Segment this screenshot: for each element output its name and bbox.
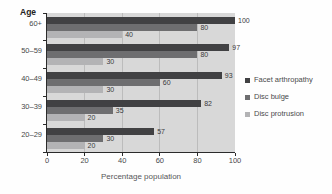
legend-label: Disc protrusion <box>254 110 304 118</box>
bar-disc-bulge <box>47 24 197 31</box>
value-label: 30 <box>106 57 114 66</box>
value-label: 97 <box>232 43 240 52</box>
value-label: 100 <box>238 16 250 25</box>
x-tick-label: 0 <box>35 156 59 165</box>
x-axis-title: Percentage population <box>71 172 211 181</box>
x-tick-label: 40 <box>110 156 134 165</box>
value-label: 60 <box>163 78 171 87</box>
value-label: 20 <box>88 141 96 150</box>
x-tick-label: 100 <box>223 156 247 165</box>
bar-disc-bulge <box>47 79 160 86</box>
value-label: 40 <box>125 30 133 39</box>
bar-disc-protrusion <box>47 58 103 65</box>
value-label: 93 <box>225 71 233 80</box>
legend-label: Disc bulge <box>254 93 289 101</box>
y-axis-tick <box>43 124 47 125</box>
legend-swatch <box>245 95 250 100</box>
value-label: 80 <box>200 23 208 32</box>
gridline <box>197 13 198 152</box>
x-tick-label: 20 <box>73 156 97 165</box>
y-axis-tick <box>43 96 47 97</box>
bar-disc-protrusion <box>47 86 103 93</box>
bar-disc-protrusion <box>47 31 122 38</box>
y-axis-tick <box>43 152 47 153</box>
plot-area <box>46 13 235 153</box>
y-axis-tick <box>43 68 47 69</box>
bar-disc-protrusion <box>47 114 85 121</box>
bar-facet-arthropathy <box>47 100 201 107</box>
value-label: 30 <box>106 85 114 94</box>
value-label: 57 <box>157 127 165 136</box>
x-tick-label: 60 <box>148 156 172 165</box>
legend-label: Facet arthropathy <box>254 76 313 84</box>
value-label: 30 <box>106 134 114 143</box>
x-tick-label: 80 <box>185 156 209 165</box>
bar-disc-bulge <box>47 107 113 114</box>
y-category-label: 60+ <box>2 19 42 28</box>
bar-disc-bulge <box>47 51 197 58</box>
value-label: 82 <box>204 99 212 108</box>
y-category-label: 50–59 <box>2 46 42 55</box>
legend-item: Disc bulge <box>245 93 313 101</box>
y-axis-tick <box>43 13 47 14</box>
bar-facet-arthropathy <box>47 128 154 135</box>
legend-item: Facet arthropathy <box>245 76 313 84</box>
legend-swatch <box>245 78 250 83</box>
bar-facet-arthropathy <box>47 72 222 79</box>
legend-swatch <box>245 112 250 117</box>
legend: Facet arthropathyDisc bulgeDisc protrusi… <box>245 76 313 127</box>
bar-disc-protrusion <box>47 142 85 149</box>
y-axis-title: Age <box>20 7 36 17</box>
bar-chart: Age Percentage population Facet arthropa… <box>0 0 332 194</box>
y-category-label: 20–29 <box>2 130 42 139</box>
value-label: 35 <box>116 106 124 115</box>
y-category-label: 30–39 <box>2 102 42 111</box>
legend-item: Disc protrusion <box>245 110 313 118</box>
value-label: 20 <box>88 113 96 122</box>
value-label: 80 <box>200 50 208 59</box>
y-category-label: 40–49 <box>2 74 42 83</box>
y-axis-tick <box>43 40 47 41</box>
